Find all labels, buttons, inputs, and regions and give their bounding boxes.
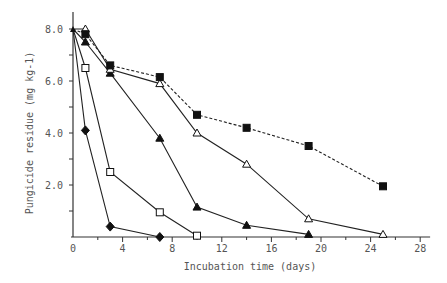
data-point-triangle bbox=[243, 160, 251, 167]
residue-chart: 04812162024282.04.06.08.0 Incubation tim… bbox=[0, 0, 447, 283]
x-tick-label: 0 bbox=[70, 243, 76, 254]
data-point-diamond bbox=[156, 233, 164, 242]
y-tick-label: 8.0 bbox=[45, 24, 63, 35]
x-tick-label: 24 bbox=[365, 243, 377, 254]
data-point-square bbox=[194, 111, 201, 118]
data-point-square bbox=[305, 143, 312, 150]
x-axis-label: Incubation time (days) bbox=[184, 261, 316, 272]
data-point-square bbox=[107, 169, 114, 176]
data-point-square bbox=[82, 65, 89, 72]
x-tick-label: 16 bbox=[265, 243, 277, 254]
data-point-square bbox=[243, 124, 250, 131]
series-line bbox=[73, 29, 309, 234]
data-point-diamond bbox=[81, 126, 89, 135]
y-tick-label: 4.0 bbox=[45, 128, 63, 139]
y-tick-label: 2.0 bbox=[45, 180, 63, 191]
series-line bbox=[73, 29, 383, 234]
data-point-square bbox=[82, 31, 89, 38]
data-point-square bbox=[380, 183, 387, 190]
data-point-square bbox=[156, 74, 163, 81]
series-line bbox=[73, 29, 197, 236]
y-tick-label: 6.0 bbox=[45, 76, 63, 87]
data-point-square bbox=[107, 62, 114, 69]
series-line bbox=[73, 29, 383, 186]
axes: 04812162024282.04.06.08.0 bbox=[45, 12, 430, 254]
data-point-square bbox=[194, 232, 201, 239]
x-tick-label: 20 bbox=[315, 243, 327, 254]
x-tick-label: 12 bbox=[216, 243, 228, 254]
data-point-diamond bbox=[106, 222, 114, 231]
x-tick-label: 28 bbox=[414, 243, 426, 254]
y-axis-label: Pungicide residue (mg kg-1) bbox=[24, 52, 35, 215]
data-point-square bbox=[156, 209, 163, 216]
x-tick-label: 8 bbox=[169, 243, 175, 254]
x-tick-label: 4 bbox=[120, 243, 126, 254]
data-point-triangle bbox=[193, 203, 201, 210]
series-group bbox=[70, 25, 387, 242]
